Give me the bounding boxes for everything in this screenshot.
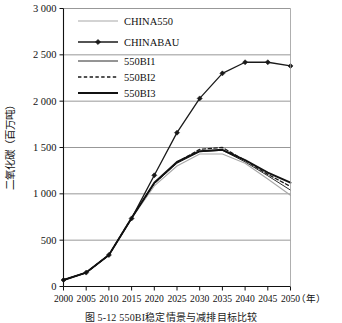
- co2-emission-line-chart: 05001 0001 5002 0002 5003 000 2000200520…: [0, 0, 342, 323]
- x-tick-label: 2040: [236, 293, 255, 304]
- x-axis-tick-labels: 2000200520102015202020252030203520402045…: [54, 293, 300, 304]
- legend-label-chinabau: CHINABAU: [124, 37, 180, 48]
- series-marker-chinabau: [243, 60, 248, 65]
- x-tick-label: 2020: [145, 293, 164, 304]
- series-line-550bi2: [64, 148, 291, 281]
- x-tick-label: 2035: [213, 293, 232, 304]
- y-tick-label: 2 500: [33, 49, 57, 60]
- y-axis-tick-labels: 05001 0001 5002 0002 5003 000: [33, 3, 57, 292]
- series-marker-chinabau: [152, 173, 157, 178]
- series-line-china550: [64, 154, 291, 280]
- series-marker-chinabau: [265, 60, 270, 65]
- legend-label-china550: CHINA550: [124, 16, 173, 27]
- y-tick-label: 500: [41, 235, 57, 246]
- x-tick-label: 2005: [77, 293, 96, 304]
- x-tick-label: 2030: [190, 293, 209, 304]
- y-axis-ticks: [60, 9, 64, 287]
- y-tick-label: 0: [51, 281, 56, 292]
- figure-container: 05001 0001 5002 0002 5003 000 2000200520…: [0, 0, 342, 323]
- legend-label-550bi2: 550BI2: [124, 72, 156, 83]
- series-line-550bi1: [64, 150, 291, 280]
- x-tick-label: 2045: [258, 293, 277, 304]
- y-tick-label: 1 500: [33, 142, 57, 153]
- x-tick-label: 2015: [122, 293, 141, 304]
- legend-marker-chinabau: [95, 39, 100, 44]
- x-axis-unit-label: （年）: [296, 293, 326, 304]
- x-tick-label: 2000: [54, 293, 73, 304]
- chart-legend: CHINA550CHINABAU550BI1550BI2550BI3: [78, 16, 180, 99]
- y-tick-label: 3 000: [33, 3, 57, 14]
- y-tick-label: 2 000: [33, 96, 57, 107]
- x-tick-label: 2025: [167, 293, 186, 304]
- x-axis-ticks: [64, 287, 291, 291]
- legend-label-550bi3: 550BI3: [124, 88, 156, 99]
- x-tick-label: 2010: [99, 293, 118, 304]
- y-axis-title: 二氧化碳（百万吨）: [4, 100, 16, 190]
- legend-label-550bi1: 550BI1: [124, 56, 156, 67]
- y-tick-label: 1 000: [33, 188, 57, 199]
- figure-caption: 图 5-12 550BI稳定情景与减排目标比较: [0, 309, 342, 323]
